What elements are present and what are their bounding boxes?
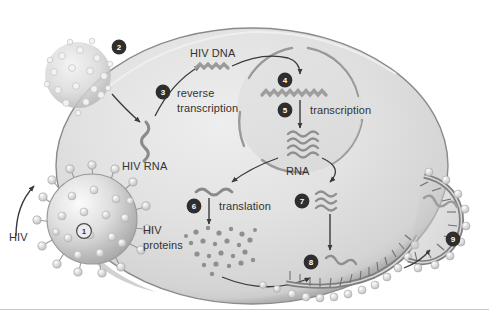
step-marker-6: 6 — [187, 199, 202, 214]
step-6-number: 6 — [192, 202, 197, 211]
step-9-number: 9 — [451, 235, 456, 244]
hiv-replication-figure: HIV 1 2 HIV RNA 3 — [0, 0, 489, 324]
step-marker-3: 3 — [156, 85, 171, 100]
step-8-number: 8 — [309, 258, 314, 267]
bottom-divider — [0, 309, 489, 310]
hiv-rna-label: HIV RNA — [122, 160, 168, 172]
step-marker-7: 7 — [295, 194, 310, 209]
step-1-number: 1 — [82, 227, 87, 236]
step-marker-5: 5 — [278, 103, 293, 118]
transcription-label: transcription — [310, 104, 371, 116]
step-marker-9: 9 — [446, 232, 461, 247]
reverse-transcription-label-line2: transcription — [177, 102, 238, 114]
reverse-transcription-label-line1: reverse — [177, 87, 214, 99]
step-marker-2: 2 — [112, 40, 127, 55]
step-4-number: 4 — [283, 76, 288, 85]
step-7-number: 7 — [300, 197, 305, 206]
step-marker-8: 8 — [304, 255, 319, 270]
hiv-dna-label: HIV DNA — [190, 47, 236, 59]
step-5-number: 5 — [283, 106, 288, 115]
hiv-proteins-label-line1: HIV — [143, 224, 162, 236]
rna-label: RNA — [286, 165, 310, 177]
step-3-number: 3 — [161, 88, 166, 97]
translation-label: translation — [219, 200, 271, 212]
step-marker-1: 1 — [77, 224, 92, 239]
diagram-canvas: HIV 1 2 HIV RNA 3 — [0, 0, 489, 324]
hiv-virion-label: HIV — [9, 231, 28, 243]
step-marker-4: 4 — [278, 73, 293, 88]
hiv-proteins-label-line2: proteins — [143, 239, 183, 251]
arrow-virion-approach — [16, 186, 34, 236]
step-2-number: 2 — [117, 43, 122, 52]
